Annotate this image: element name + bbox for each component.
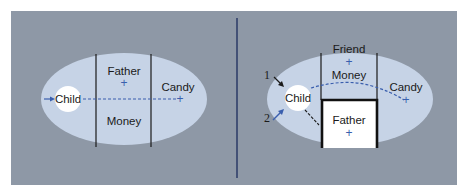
candy-label: Candy — [161, 81, 194, 93]
lewin-field-diagrams: + + Child Father Money Candy 1 2 + + + — [0, 0, 469, 196]
valence-plus-icon: + — [120, 76, 127, 90]
child-label: Child — [285, 92, 311, 104]
valence-plus-icon: + — [345, 126, 352, 140]
father-label: Father — [332, 114, 365, 126]
valence-plus-icon: + — [176, 92, 183, 106]
money-label: Money — [332, 69, 367, 81]
child-label: Child — [55, 93, 81, 105]
left-diagram: + + Child Father Money Candy — [41, 53, 207, 147]
path-number-1: 1 — [264, 68, 270, 82]
father-label: Father — [107, 65, 140, 77]
right-diagram: 1 2 + + + Child Friend Money Candy Fathe… — [264, 43, 433, 148]
money-label: Money — [107, 115, 142, 127]
path-number-2: 2 — [264, 111, 270, 125]
valence-plus-icon: + — [345, 55, 352, 69]
valence-plus-icon: + — [402, 93, 409, 107]
candy-label: Candy — [389, 81, 422, 93]
friend-label: Friend — [333, 43, 366, 55]
